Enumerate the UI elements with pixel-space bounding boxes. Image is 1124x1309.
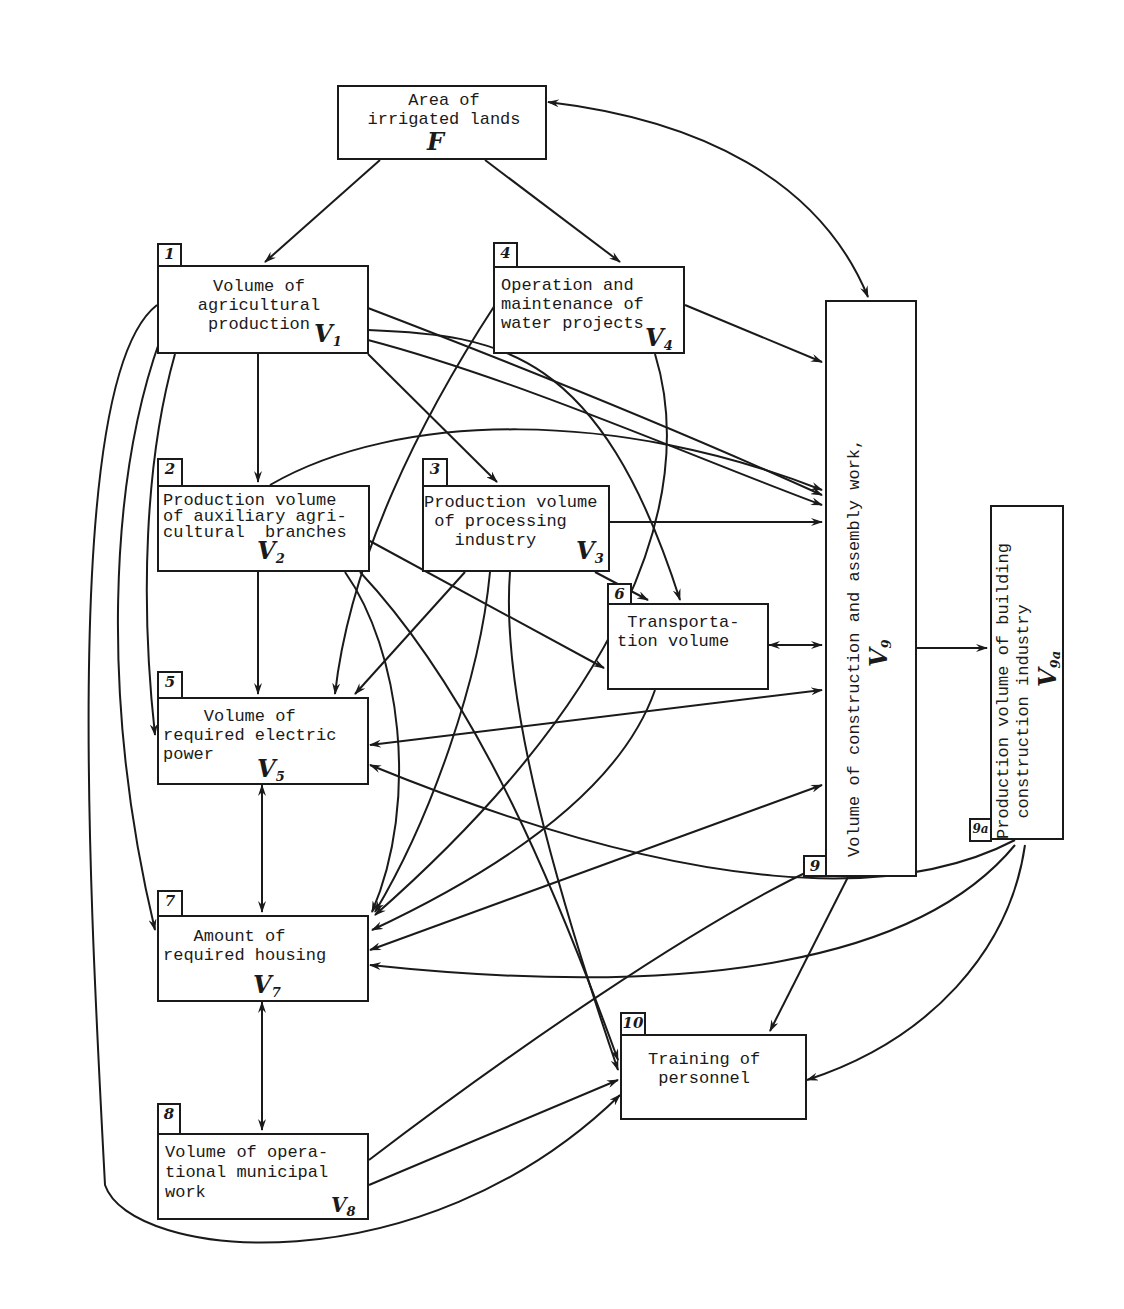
node-electric-power: Volume of required electric power V5 bbox=[157, 697, 369, 785]
node-number-3: 3 bbox=[422, 458, 448, 487]
node-number-7: 7 bbox=[157, 890, 183, 917]
node-number-9: 9 bbox=[803, 855, 827, 877]
node-variable: V2 bbox=[257, 539, 285, 571]
node-variable: V5 bbox=[257, 757, 285, 789]
node-label: Transporta- tion volume bbox=[617, 613, 739, 651]
node-number-1: 1 bbox=[157, 243, 182, 267]
node-label: Volume of construction and assembly work… bbox=[845, 439, 864, 857]
node-label: Operation and maintenance of water proje… bbox=[501, 276, 644, 333]
node-label: Production volume of building constructi… bbox=[994, 543, 1034, 839]
node-variable: V7 bbox=[253, 973, 281, 1005]
node-number-2: 2 bbox=[157, 458, 183, 487]
node-label: Area of irrigated lands bbox=[349, 91, 539, 129]
node-water-projects: Operation and maintenance of water proje… bbox=[493, 266, 685, 354]
node-number-8: 8 bbox=[157, 1103, 181, 1135]
node-label: Volume of required electric power bbox=[163, 707, 336, 764]
node-number-6: 6 bbox=[607, 583, 632, 605]
node-agricultural-production: Volume of agricultural production V1 bbox=[157, 265, 369, 354]
node-label: Production volume of auxiliary agri- cul… bbox=[163, 493, 347, 541]
node-label: Training of personnel bbox=[648, 1050, 760, 1088]
node-required-housing: Amount of required housing V7 bbox=[157, 915, 369, 1002]
node-variable: V1 bbox=[314, 322, 342, 354]
node-personnel-training: Training of personnel bbox=[620, 1034, 807, 1120]
node-variable: V9a bbox=[1036, 651, 1068, 687]
node-variable: F bbox=[427, 130, 444, 154]
node-variable: V8 bbox=[331, 1193, 356, 1224]
node-number-10: 10 bbox=[620, 1012, 646, 1036]
node-irrigated-area: Area of irrigated lands F bbox=[337, 85, 547, 160]
node-municipal-work: Volume of opera- tional municipal work V… bbox=[157, 1133, 369, 1220]
node-number-9a: 9a bbox=[969, 818, 992, 842]
node-label: Amount of required housing bbox=[163, 927, 326, 965]
node-number-4: 4 bbox=[493, 242, 518, 268]
node-label: Production volume of processing industry bbox=[424, 493, 597, 550]
node-processing-industry: Production volume of processing industry… bbox=[422, 485, 610, 572]
node-variable: V9 bbox=[867, 639, 899, 667]
node-variable: V4 bbox=[645, 326, 673, 358]
node-variable: V3 bbox=[576, 539, 604, 571]
node-construction-assembly-work: Volume of construction and assembly work… bbox=[825, 300, 917, 877]
node-number-5: 5 bbox=[157, 671, 183, 699]
node-transportation-volume: Transporta- tion volume bbox=[607, 603, 769, 690]
node-label: Volume of opera- tional municipal work bbox=[165, 1143, 328, 1203]
node-building-construction-industry: Production volume of building constructi… bbox=[990, 505, 1064, 840]
node-auxiliary-branches: Production volume of auxiliary agri- cul… bbox=[157, 485, 370, 572]
